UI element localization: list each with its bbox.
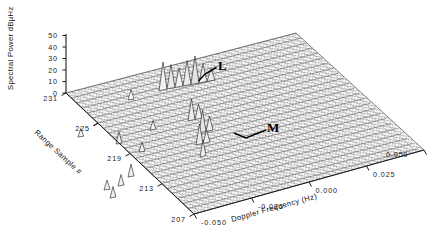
y-tick-label-213: 213 — [139, 184, 154, 193]
z-tick-label-10: 10 — [48, 77, 58, 86]
z-tick-label-30: 30 — [48, 54, 58, 63]
z-tick-label-40: 40 — [48, 43, 58, 52]
spectral-surface-figure: 50 40 30 20 10 0 Spectral Power dBµHz 23… — [0, 0, 435, 229]
y-tick-label-225: 225 — [75, 124, 90, 133]
x-tick-label-050: 0.050 — [386, 150, 409, 159]
z-axis: 50 40 30 20 10 0 Spectral Power dBµHz — [6, 6, 66, 97]
annotation-M-label: M — [267, 120, 279, 135]
surface-mesh — [66, 33, 424, 214]
x-tick-label-000: 0.000 — [316, 186, 339, 195]
surface-plot-canvas: 50 40 30 20 10 0 Spectral Power dBµHz 23… — [0, 0, 435, 229]
y-tick-label-219: 219 — [107, 154, 122, 163]
surface-base-quad — [66, 33, 424, 214]
annotation-L-label: L — [218, 58, 227, 73]
z-tick-label-20: 20 — [48, 66, 58, 75]
x-tick-label-neg050: -0.050 — [201, 218, 227, 227]
y-tick-label-207: 207 — [171, 215, 186, 224]
y-axis-title: Range Sample # — [33, 128, 84, 177]
y-tick-label-231: 231 — [43, 94, 58, 103]
z-axis-title: Spectral Power dBµHz — [6, 6, 15, 90]
x-tick-label-025: 0.025 — [373, 170, 396, 179]
z-tick-label-50: 50 — [48, 31, 58, 40]
